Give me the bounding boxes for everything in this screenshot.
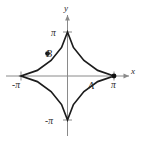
point-b-label: B (46, 48, 52, 59)
y-axis-arrowhead (65, 15, 70, 21)
y-axis-name-label: y (63, 3, 68, 13)
math-figure: A B x y -π π π -π (0, 0, 143, 142)
x-axis-name-label: x (130, 66, 135, 76)
x-axis-arrowhead (124, 74, 130, 79)
point-a-dot (112, 74, 117, 79)
point-b-marker: B (45, 48, 52, 59)
y-tick-label-neg-pi: -π (45, 116, 53, 126)
plot-canvas: A B x y -π π π -π (0, 0, 143, 142)
point-a-label: A (87, 80, 95, 91)
y-tick-label-pos-pi: π (51, 28, 56, 38)
x-tick-label-neg-pi: -π (12, 80, 20, 90)
x-tick-label-pos-pi: π (111, 80, 116, 90)
